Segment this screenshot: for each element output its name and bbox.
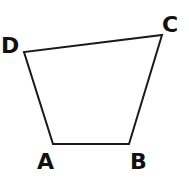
vertex-label-b: B [130,149,147,174]
quadrilateral-diagram: D C A B [0,0,189,182]
vertex-label-c: C [162,12,178,37]
vertex-label-d: D [1,33,19,58]
vertex-label-a: A [37,149,54,174]
quadrilateral-abcd [24,35,162,144]
